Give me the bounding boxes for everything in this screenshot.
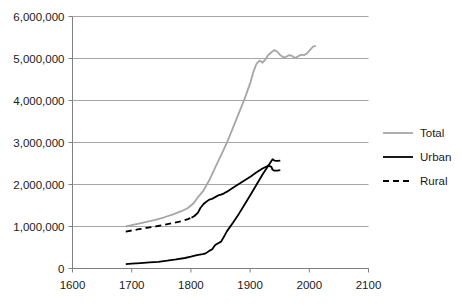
- x-tick-label: 1700: [119, 279, 145, 291]
- y-tick-label: 3,000,000: [13, 137, 64, 149]
- y-tick-label: 1,000,000: [13, 221, 64, 233]
- series-line-rural: [191, 166, 280, 218]
- y-tick-label: 6,000,000: [13, 11, 64, 23]
- x-axis-ticks: [73, 269, 369, 273]
- legend-label-rural: Rural: [420, 175, 447, 187]
- y-axis-tick-labels: 01,000,0002,000,0003,000,0004,000,0005,0…: [13, 11, 64, 275]
- legend-label-total: Total: [420, 127, 444, 139]
- x-axis-tick-labels: 160017001800190020002100: [60, 279, 382, 291]
- y-tick-label: 0: [58, 263, 64, 275]
- chart-legend: TotalUrbanRural: [383, 127, 451, 187]
- y-tick-label: 5,000,000: [13, 53, 64, 65]
- y-axis-ticks: [69, 17, 73, 269]
- series-line-urban: [126, 159, 281, 264]
- y-tick-label: 2,000,000: [13, 179, 64, 191]
- x-tick-label: 2000: [297, 279, 323, 291]
- x-tick-label: 1600: [60, 279, 86, 291]
- line-chart: 01,000,0002,000,0003,000,0004,000,0005,0…: [0, 0, 462, 308]
- gridlines: [73, 17, 369, 269]
- chart-canvas: 01,000,0002,000,0003,000,0004,000,0005,0…: [0, 0, 462, 308]
- legend-label-urban: Urban: [420, 151, 451, 163]
- x-tick-label: 1800: [178, 279, 204, 291]
- data-series-group: [126, 46, 316, 264]
- x-tick-label: 2100: [356, 279, 382, 291]
- x-tick-label: 1900: [237, 279, 263, 291]
- series-line-total: [126, 46, 316, 227]
- y-tick-label: 4,000,000: [13, 95, 64, 107]
